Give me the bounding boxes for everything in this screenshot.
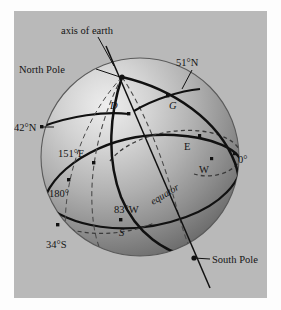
point-south-pole [191, 255, 196, 260]
point-north-pole [119, 74, 124, 79]
point-42n-marker [40, 125, 43, 128]
point-w-label: W [199, 164, 209, 175]
point-e-label: E [184, 141, 190, 152]
point-s-label: S [119, 227, 125, 238]
lon-151e-label: 151°E [58, 148, 84, 159]
lat-42n-label: 42°N [14, 122, 37, 133]
point-151e-marker [92, 161, 95, 164]
lat-51n-label: 51°N [176, 57, 199, 68]
point-s-marker [119, 218, 122, 221]
point-0-marker [233, 152, 236, 155]
axis-label-leader [98, 37, 114, 66]
lat-34s-label: 34°S [46, 239, 67, 250]
lon-0-label: 0° [238, 154, 247, 165]
lon-180-label: 180° [49, 188, 69, 199]
point-w-marker [210, 157, 213, 160]
axis-of-earth-label: axis of earth [61, 25, 114, 36]
diagram-panel: axis of earth North Pole South Pole 51°N… [14, 11, 267, 298]
south-pole-label: South Pole [212, 254, 258, 265]
point-180-marker [67, 178, 70, 181]
point-g-label: G [169, 100, 177, 111]
point-e-marker [198, 134, 201, 137]
point-d-marker [127, 112, 130, 115]
lon-83w-label: 83°W [114, 204, 139, 215]
globe-diagram-svg: axis of earth North Pole South Pole 51°N… [14, 11, 267, 298]
north-pole-label: North Pole [19, 64, 65, 75]
point-d-label: D [109, 100, 118, 111]
point-34s-marker [56, 223, 59, 226]
figure-container: axis of earth North Pole South Pole 51°N… [0, 0, 281, 310]
point-g-marker [166, 94, 169, 97]
